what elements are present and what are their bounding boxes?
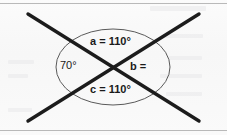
angle-label-c: c = 110°	[90, 84, 131, 95]
angle-label-b-text: b =	[130, 60, 146, 72]
angle-label-b: b =	[130, 61, 146, 72]
angle-diagram-screenshot: a = 110° 70° b = c = 110°	[0, 0, 227, 135]
angle-label-a: a = 110°	[90, 36, 131, 47]
angle-label-left-text: 70°	[60, 59, 77, 71]
angle-label-a-text: a = 110°	[90, 35, 131, 47]
angle-label-left: 70°	[60, 60, 77, 71]
angle-figure	[0, 0, 227, 135]
angle-label-c-text: c = 110°	[90, 83, 131, 95]
